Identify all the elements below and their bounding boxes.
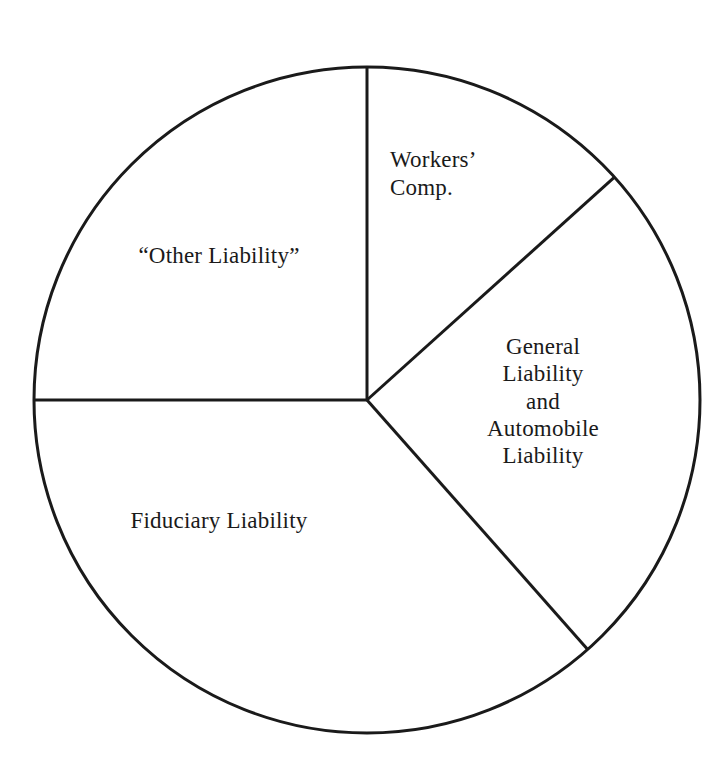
pie-chart-figure: “Other Liability” Workers’ Comp. General…	[0, 0, 719, 772]
pie-slice-label-fiduciary-liability: Fiduciary Liability	[83, 508, 355, 535]
pie-slice-label-general-automobile-liability: General Liability and Automobile Liabili…	[463, 333, 623, 470]
pie-slice-label-workers-comp: Workers’ Comp.	[390, 146, 540, 202]
pie-slice-label-other-liability: “Other Liability”	[83, 243, 355, 270]
